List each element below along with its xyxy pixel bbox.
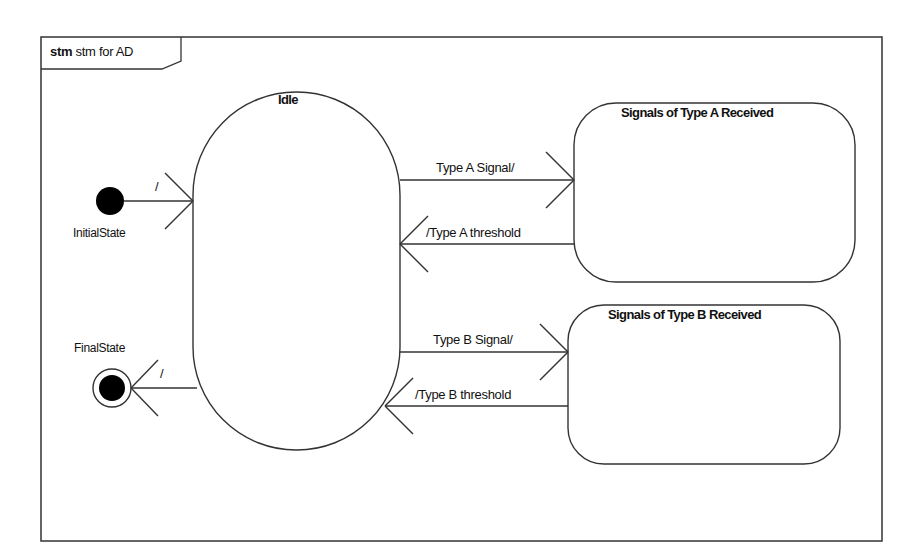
initial-state-node[interactable] (96, 187, 124, 215)
state-machine-canvas (0, 0, 917, 559)
state-type-a-received[interactable] (574, 103, 855, 282)
final-state-label: FinalState (74, 341, 125, 355)
final-state-core (99, 375, 125, 401)
initial-state-label: InitialState (73, 226, 125, 240)
state-type-b-title: Signals of Type B Received (608, 307, 761, 322)
state-idle-title: Idle (278, 92, 298, 107)
transition-idle-to-a-label: Type A Signal/ (436, 160, 514, 175)
frame-name: stm for AD (76, 44, 134, 59)
transition-initial-to-idle[interactable] (124, 173, 193, 229)
transition-idle-to-b-label: Type B Signal/ (433, 332, 513, 347)
transition-idle-to-final[interactable] (131, 360, 197, 416)
state-type-a-title: Signals of Type A Received (621, 105, 773, 120)
frame-label: stm stm for AD (50, 44, 133, 59)
transition-b-to-idle-label: /Type B threshold (415, 387, 511, 402)
transition-final-label: / (160, 366, 163, 381)
transition-initial-label: / (155, 179, 158, 194)
frame-keyword: stm (50, 44, 72, 59)
state-idle[interactable] (193, 92, 400, 450)
state-type-b-received[interactable] (568, 305, 840, 464)
transition-a-to-idle-label: /Type A threshold (426, 225, 521, 240)
